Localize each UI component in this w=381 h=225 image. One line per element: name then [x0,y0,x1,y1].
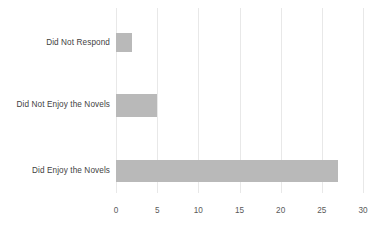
category-label-did-enjoy-the-novels: Did Enjoy the Novels [0,166,110,176]
category-label-did-not-respond: Did Not Respond [0,38,110,48]
bar-did-not-respond [116,33,132,52]
plot-area: 0 5 10 15 20 25 30 [116,8,363,193]
gridline-30 [363,8,364,193]
xtick-label-20: 20 [266,205,296,216]
xtick-label-30: 30 [348,205,378,216]
xtick-label-0: 0 [101,205,131,216]
xtick-label-10: 10 [183,205,213,216]
category-label-did-not-enjoy-the-novels: Did Not Enjoy the Novels [0,100,110,110]
xtick-label-5: 5 [142,205,172,216]
xtick-label-15: 15 [225,205,255,216]
bar-did-enjoy-the-novels [116,160,338,182]
bar-chart: 0 5 10 15 20 25 30 Did Not Respond Did N… [0,0,381,225]
xtick-label-25: 25 [307,205,337,216]
bar-did-not-enjoy-the-novels [116,94,157,117]
